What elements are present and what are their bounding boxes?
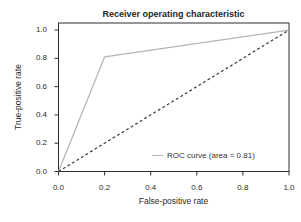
y-tick-label: 0.6 bbox=[36, 83, 47, 91]
roc-figure: Receiver operating characteristic 0.00.2… bbox=[0, 0, 301, 222]
y-tick-label: 0.4 bbox=[36, 111, 47, 119]
legend-label: ROC curve (area = 0.81) bbox=[167, 151, 255, 160]
y-tick-label: 0.2 bbox=[36, 139, 47, 147]
y-axis-label: True-positive rate bbox=[13, 58, 23, 136]
y-tick-label: 0.8 bbox=[36, 54, 47, 62]
x-axis-label: False-positive rate bbox=[58, 196, 289, 206]
y-tick-label: 0.0 bbox=[36, 168, 47, 176]
legend: ROC curve (area = 0.81) bbox=[152, 151, 255, 160]
y-axis-tick-labels: 0.00.20.40.60.81.0 bbox=[0, 0, 301, 222]
y-tick-label: 1.0 bbox=[36, 26, 47, 34]
legend-line-sample bbox=[152, 155, 163, 156]
